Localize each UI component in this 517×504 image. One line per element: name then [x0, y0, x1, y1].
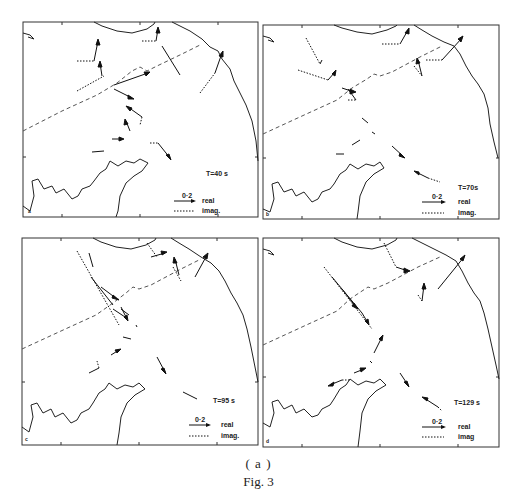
panel-b: T=70s 0·2 real imag. b [262, 24, 502, 221]
scale-label: 0·2 [182, 192, 192, 199]
panel-a: T=40 s 0·2 real imag. a [22, 21, 260, 219]
induction-arrow-map-a: T=40 s 0·2 real imag. a [22, 21, 260, 219]
induction-arrow-map-c: T=95 s 0·2 real imag. c [21, 237, 260, 447]
panel-d: T=129 s 0·2 real imag d [262, 237, 502, 449]
imag-label: imag. [458, 209, 476, 217]
scale-label: 0·2 [432, 418, 442, 425]
panel-letter: b [266, 211, 269, 217]
panel-c: T=95 s 0·2 real imag. c [21, 237, 260, 447]
imag-label: imag. [221, 432, 239, 440]
panel-letter: a [28, 208, 31, 214]
period-label: T=40 s [206, 170, 228, 177]
subfigure-caption: ( a ) [0, 456, 517, 472]
panel-letter: c [25, 436, 28, 442]
imag-label: imag. [202, 207, 220, 215]
real-label: real [458, 423, 471, 430]
imag-label: imag [458, 433, 474, 441]
scale-label: 0·2 [195, 416, 205, 423]
period-label: T=129 s [454, 399, 480, 406]
period-label: T=70s [458, 184, 478, 191]
panel-letter: d [266, 438, 269, 444]
period-label: T=95 s [213, 397, 235, 404]
real-label: real [221, 421, 234, 428]
real-label: real [458, 198, 471, 205]
scale-label: 0·2 [432, 193, 442, 200]
induction-arrow-map-d: T=129 s 0·2 real imag d [262, 237, 502, 449]
figure-caption: Fig. 3 [0, 474, 517, 490]
real-label: real [202, 197, 215, 204]
induction-arrow-map-b: T=70s 0·2 real imag. b [262, 24, 502, 221]
